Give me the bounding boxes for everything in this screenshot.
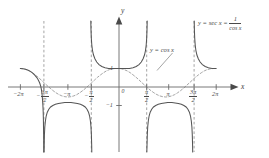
cosine-path (20, 69, 216, 98)
xtick-label-pi: π (167, 91, 170, 97)
fraction-denominator: cos x (229, 24, 241, 31)
fraction-denominator: 2 (41, 97, 49, 104)
secant-curve (20, 21, 216, 152)
y-axis-arrowhead (116, 17, 123, 25)
cosine-equation-annotation: y = cos x (150, 47, 174, 54)
ytick-label-neg-one: −1 (106, 102, 113, 108)
cosine-curve (20, 69, 216, 98)
xtick-label-neg-2pi: −2π (13, 91, 24, 97)
fraction-3pi-over-2: 3π2 (41, 89, 49, 103)
fraction-pi-over-2: π2 (89, 89, 94, 103)
xtick-label-pi-over-2: π2 (144, 89, 149, 103)
x-axis-arrowhead (231, 84, 239, 91)
secant-branch-4 (147, 103, 193, 153)
x-axis-label: x (241, 83, 244, 91)
cos-leader-line (157, 53, 173, 71)
fraction-numerator: 1 (229, 16, 241, 24)
secant-equation-annotation: y = sec x = 1 cos x (198, 16, 241, 31)
fraction-pi-over-2: π2 (144, 89, 149, 103)
secant-graph-figure: y x 0 −2π −3π2 −π −π2 π2 π 3π2 2π 1 −1 y… (0, 0, 269, 158)
origin-label: 0 (122, 89, 125, 95)
xtick-label-neg-pi-over-2: −π2 (84, 89, 94, 103)
fraction-denominator: 2 (189, 97, 197, 104)
ytick-label-one: 1 (110, 65, 113, 71)
xtick-label-3pi-over-2: 3π2 (189, 89, 197, 103)
secant-branch-2 (44, 103, 92, 153)
y-axis-group (116, 17, 123, 153)
xtick-label-neg-pi: −π (63, 91, 70, 97)
xtick-label-2pi: 2π (212, 91, 218, 97)
secant-equation-fraction: 1 cos x (229, 16, 241, 31)
secant-equation-lhs: y = sec x = (198, 20, 228, 27)
secant-branch-1 (20, 69, 44, 153)
xtick-label-neg-3pi-over-2: −3π2 (36, 89, 49, 103)
fraction-denominator: 2 (89, 97, 94, 104)
cos-leader (157, 53, 173, 71)
fraction-3pi-over-2: 3π2 (189, 89, 197, 103)
y-axis-label: y (121, 7, 124, 15)
fraction-denominator: 2 (144, 97, 149, 104)
